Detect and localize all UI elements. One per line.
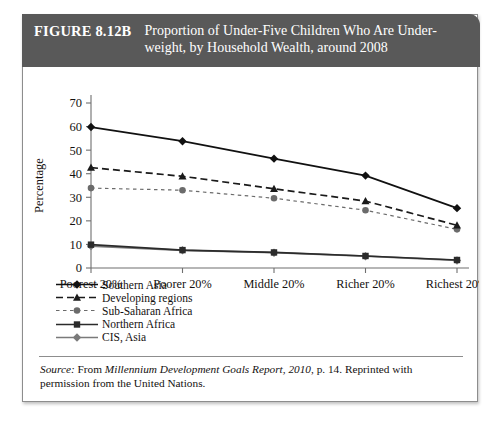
- data-point-marker-diamond: [453, 204, 461, 212]
- data-point-marker-triangle: [362, 197, 370, 204]
- series-line: [91, 188, 457, 229]
- legend-item: Northern Africa: [55, 318, 315, 331]
- figure-box: FIGURE 8.12B Proportion of Under-Five Ch…: [22, 14, 478, 402]
- y-axis-tick-label: 30: [70, 191, 83, 205]
- data-point-marker-circle: [362, 207, 369, 214]
- y-axis-title: Percentage: [32, 158, 46, 213]
- y-axis-tick-label: 50: [70, 144, 83, 158]
- source-publication-title: Millennium Development Goals Report, 201…: [105, 363, 311, 375]
- data-point-marker-square: [74, 321, 80, 327]
- legend-swatch: [55, 291, 99, 304]
- figure-number: FIGURE 8.12B: [34, 22, 131, 40]
- data-point-marker-diamond: [73, 280, 81, 288]
- figure-title-line-1: Proportion of Under-Five Children Who Ar…: [144, 23, 436, 38]
- legend-swatch: [55, 278, 99, 291]
- data-point-marker-square: [88, 241, 94, 247]
- legend-item-label: Developing regions: [102, 292, 192, 304]
- y-axis-tick-label: 70: [70, 96, 83, 110]
- legend-item-label: Sub-Saharan Africa: [102, 305, 192, 317]
- legend-item: Sub-Saharan Africa: [55, 304, 315, 317]
- data-point-marker-square: [179, 247, 185, 253]
- data-point-marker-diamond: [178, 137, 186, 145]
- data-point-marker-square: [362, 253, 368, 259]
- legend-swatch: [55, 304, 99, 317]
- figure-title: Proportion of Under-Five Children Who Ar…: [144, 22, 436, 56]
- source-label: Source:: [40, 363, 75, 375]
- figure-header: FIGURE 8.12B Proportion of Under-Five Ch…: [22, 14, 480, 67]
- source-divider: [39, 356, 463, 357]
- data-point-marker-circle: [88, 185, 95, 192]
- legend-item: Southern Asia: [55, 278, 315, 291]
- chart-legend: Southern AsiaDeveloping regionsSub-Sahar…: [55, 278, 315, 344]
- data-point-marker-diamond: [73, 333, 81, 341]
- legend-swatch: [55, 331, 99, 344]
- source-note: Source: From Millennium Development Goal…: [40, 362, 460, 390]
- data-point-marker-circle: [74, 308, 81, 315]
- legend-item-label: Northern Africa: [102, 318, 175, 330]
- figure-title-line-2: weight, by Household Wealth, around 2008: [144, 40, 387, 55]
- x-axis-tick-label: Richer 20%: [336, 277, 394, 291]
- x-axis-tick-label: Richest 20%: [426, 277, 479, 291]
- y-axis-tick-label: 10: [70, 238, 83, 252]
- data-point-marker-circle: [179, 187, 186, 194]
- source-text-before: From: [75, 363, 105, 375]
- y-axis-tick-label: 20: [70, 214, 83, 228]
- chart-series-northern-africa: [88, 241, 460, 263]
- data-point-marker-diamond: [270, 154, 278, 162]
- y-axis-tick-label: 0: [76, 261, 82, 275]
- legend-item-label: CIS, Asia: [102, 331, 146, 343]
- y-axis-tick-label: 60: [70, 120, 83, 134]
- data-point-marker-circle: [271, 195, 278, 202]
- legend-item: CIS, Asia: [55, 331, 315, 344]
- data-point-marker-diamond: [87, 123, 95, 131]
- data-point-marker-square: [454, 257, 460, 263]
- data-point-marker-square: [271, 249, 277, 255]
- legend-swatch: [55, 318, 99, 331]
- legend-item: Developing regions: [55, 291, 315, 304]
- y-axis-tick-label: 40: [70, 167, 83, 181]
- legend-item-label: Southern Asia: [102, 279, 167, 291]
- data-point-marker-diamond: [361, 171, 369, 179]
